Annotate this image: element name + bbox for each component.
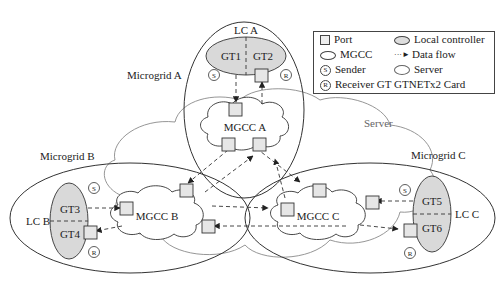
receiver-icon: R: [320, 80, 331, 91]
lc-c-controller: [413, 176, 451, 252]
gt1-label: GT1: [221, 50, 241, 62]
lc-b-label: LC B: [26, 215, 50, 227]
port-gt6: [404, 224, 417, 237]
lc-a-controller: [206, 37, 286, 75]
port-mgcc-a-top: [229, 103, 242, 116]
port-gt4: [84, 226, 97, 239]
receiver-b: R: [92, 249, 97, 257]
legend-mgcc: MGCC: [320, 47, 372, 62]
local-controller-icon: [394, 36, 410, 45]
microgrid-a-label: Microgrid A: [127, 69, 182, 81]
legend-data-flow: ···►Data flow: [394, 47, 456, 62]
gt5-label: GT5: [422, 195, 443, 207]
legend-sender: SSender: [320, 62, 366, 77]
port-icon: [320, 35, 330, 45]
microgrid-b-label: Microgrid B: [40, 150, 95, 162]
gt6-label: GT6: [422, 222, 443, 234]
data-flow-arrow-icon: ···►: [394, 51, 408, 59]
lc-c-label: LC C: [455, 208, 479, 220]
port-mgcc-b-left: [120, 202, 133, 215]
server-label: Server: [364, 117, 393, 129]
mgcc-icon: [320, 51, 336, 60]
port-gt2: [255, 69, 268, 82]
port-mgcc-a-br: [253, 138, 266, 151]
sender-c: S: [403, 187, 407, 195]
legend-port: Port: [320, 32, 352, 47]
gt2-label: GT2: [253, 50, 273, 62]
gt3-label: GT3: [60, 203, 81, 215]
mgcc-a-label: MGCC A: [224, 121, 267, 133]
receiver-c: R: [408, 250, 413, 258]
legend-receiver: RReceiver GT GTNETx2 Card: [320, 77, 465, 92]
legend-local-controller: Local controller: [394, 32, 485, 47]
legend-server: Server: [394, 62, 443, 77]
port-mgcc-a-bl: [222, 138, 235, 151]
port-mgcc-b-right: [202, 220, 215, 233]
port-mgcc-c-right: [366, 196, 379, 209]
sender-b: S: [92, 185, 96, 193]
mgcc-b-label: MGCC B: [136, 210, 179, 222]
port-mgcc-c-top: [313, 184, 326, 197]
sender-icon: S: [320, 65, 331, 76]
port-mgcc-c-left: [281, 203, 294, 216]
lc-a-label: LC A: [234, 24, 258, 36]
lc-b-controller: [50, 183, 88, 259]
server-icon: [394, 65, 410, 75]
sender-a: S: [212, 72, 216, 80]
receiver-a: R: [284, 72, 289, 80]
port-mgcc-b-top: [180, 184, 193, 197]
legend: Port Local controller MGCC ···►Data flow…: [313, 31, 495, 94]
gt4-label: GT4: [60, 228, 81, 240]
microgrid-c-label: Microgrid C: [411, 149, 466, 161]
mgcc-c-label: MGCC C: [297, 210, 340, 222]
